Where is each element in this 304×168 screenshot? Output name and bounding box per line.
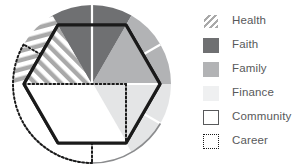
legend-item-health[interactable]: Health	[196, 9, 304, 33]
dark-gray-swatch-icon	[203, 38, 219, 53]
light-gray-swatch-icon	[203, 86, 219, 101]
medium-gray-swatch-icon	[203, 62, 219, 77]
legend-label-faith: Faith	[232, 39, 258, 51]
legend-item-faith[interactable]: Faith	[196, 33, 304, 57]
legend-label-community: Community	[232, 111, 292, 123]
legend-item-career[interactable]: Career	[196, 129, 304, 153]
legend-label-family: Family	[232, 63, 267, 75]
legend-label-career: Career	[232, 135, 268, 147]
legend-item-community[interactable]: Community	[196, 105, 304, 129]
legend-label-finance: Finance	[232, 87, 274, 99]
wheel-chart-area	[0, 0, 190, 168]
outlined-square-icon	[203, 110, 219, 125]
life-balance-wheel-figure: Health Faith Family Finance Community Ca…	[0, 0, 304, 168]
legend-item-finance[interactable]: Finance	[196, 81, 304, 105]
legend-item-family[interactable]: Family	[196, 57, 304, 81]
dotted-square-icon	[203, 134, 219, 149]
chart-legend: Health Faith Family Finance Community Ca…	[196, 0, 304, 168]
wheel-svg	[0, 0, 190, 168]
hatched-swatch-icon	[203, 14, 219, 29]
legend-label-health: Health	[232, 15, 266, 27]
